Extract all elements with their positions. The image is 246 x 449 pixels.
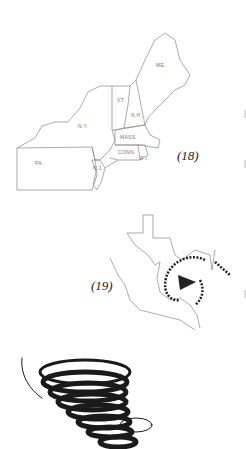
- state-label-nj: N.J.: [93, 165, 103, 171]
- page-edge-mark: [244, 160, 246, 168]
- state-label-mass: MASS.: [120, 134, 137, 140]
- page-edge-mark: [244, 290, 246, 298]
- figure-18-northeast-map: ME. VT. N.H. N.Y. MASS. CONN. R.I. PA. N…: [0, 0, 246, 200]
- figure-tornado-sketch: [0, 330, 246, 449]
- hurricane-eye-icon: [178, 275, 196, 290]
- figure-caption-18: (18): [177, 148, 199, 164]
- state-label-nh: N.H.: [131, 112, 142, 118]
- figure-19-gulf-hurricane-map: (19): [0, 200, 246, 330]
- figure-caption-19: (19): [91, 278, 113, 294]
- state-label-pa: PA.: [35, 160, 44, 166]
- page-edge-mark: [244, 110, 246, 118]
- tornado-icon: [0, 330, 246, 449]
- state-label-ri: R.I.: [140, 155, 149, 161]
- state-label-conn: CONN.: [118, 149, 136, 155]
- state-label-ny: N.Y.: [78, 123, 88, 129]
- state-label-me: ME.: [156, 62, 166, 68]
- gulf-map-outline: [0, 200, 246, 330]
- state-label-vt: VT.: [117, 97, 125, 103]
